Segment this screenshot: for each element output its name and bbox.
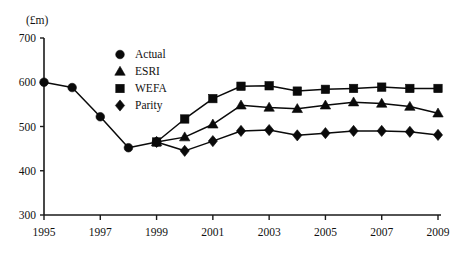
y-axis-tick-label: 600 <box>19 76 37 88</box>
legend-label-actual: Actual <box>135 48 166 60</box>
marker-triangle <box>236 100 246 109</box>
marker-square <box>237 82 245 90</box>
series-parity <box>152 124 443 156</box>
marker-square <box>406 84 414 92</box>
marker-circle <box>96 112 105 121</box>
marker-diamond <box>180 145 189 156</box>
legend-item-wefa: WEFA <box>116 82 168 94</box>
marker-triangle <box>115 66 125 75</box>
y-axis-tick-label: 400 <box>19 165 37 177</box>
y-axis-tick-label: 500 <box>19 121 37 133</box>
marker-square <box>349 84 357 92</box>
marker-diamond <box>349 125 358 136</box>
y-axis-unit-label: (£m) <box>26 14 49 27</box>
x-axis-tick-label: 1995 <box>33 226 56 238</box>
marker-triangle <box>208 119 218 128</box>
x-axis-tick-label: 2003 <box>258 226 281 238</box>
x-axis-tick-label: 2009 <box>427 226 450 238</box>
marker-circle <box>40 78 49 87</box>
marker-diamond <box>377 125 386 136</box>
marker-circle <box>116 50 125 59</box>
marker-triangle <box>348 97 358 106</box>
legend-item-parity: Parity <box>115 99 162 112</box>
y-axis-tick-label: 700 <box>19 32 37 44</box>
marker-square <box>265 82 273 90</box>
marker-square <box>116 84 124 92</box>
y-axis-tick-label: 300 <box>19 209 37 221</box>
marker-square <box>209 94 217 102</box>
marker-diamond <box>433 129 442 140</box>
marker-circle <box>68 83 77 92</box>
marker-diamond <box>265 124 274 135</box>
marker-diamond <box>236 125 245 136</box>
marker-diamond <box>115 100 124 111</box>
marker-triangle <box>180 132 190 141</box>
x-axis-tick-label: 1997 <box>89 226 112 238</box>
marker-circle <box>124 143 133 152</box>
chart-canvas: ActualESRIWEFAParity 7006005004003001995… <box>0 0 461 253</box>
legend-item-actual: Actual <box>116 48 166 60</box>
axis-labels: 7006005004003001995199719992001200320052… <box>19 14 450 238</box>
legend-label-parity: Parity <box>135 99 163 112</box>
marker-diamond <box>208 136 217 147</box>
series-group <box>40 78 444 156</box>
x-axis-tick-label: 2005 <box>314 226 337 238</box>
legend-label-esri: ESRI <box>135 65 160 77</box>
marker-diamond <box>405 126 414 137</box>
x-axis-tick-label: 2001 <box>201 226 224 238</box>
marker-square <box>378 83 386 91</box>
chart-legend: ActualESRIWEFAParity <box>115 48 168 112</box>
marker-square <box>181 115 189 123</box>
marker-square <box>293 87 301 95</box>
x-axis-tick-label: 1999 <box>145 226 168 238</box>
marker-diamond <box>321 128 330 139</box>
legend-item-esri: ESRI <box>115 65 160 77</box>
legend-label-wefa: WEFA <box>135 82 167 94</box>
x-axis-tick-label: 2007 <box>370 226 393 238</box>
line-chart: ActualESRIWEFAParity 7006005004003001995… <box>0 0 461 253</box>
marker-square <box>321 85 329 93</box>
marker-square <box>434 84 442 92</box>
marker-diamond <box>293 130 302 141</box>
